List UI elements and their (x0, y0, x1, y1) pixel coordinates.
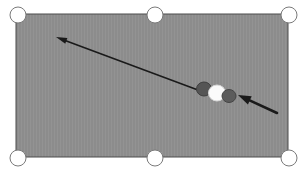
handle-top-left[interactable] (10, 7, 26, 23)
handle-bottom-left[interactable] (10, 150, 26, 166)
handle-bottom-center[interactable] (147, 150, 163, 166)
handle-top-center[interactable] (147, 7, 163, 23)
circle-dark-right[interactable] (222, 90, 236, 103)
diagram-canvas[interactable]: Selected rectangle Selection handles Lon… (0, 0, 307, 172)
diagram-scene (0, 0, 307, 172)
handle-bottom-right[interactable] (281, 150, 297, 166)
selected-rectangle[interactable] (16, 14, 288, 157)
handle-top-right[interactable] (281, 7, 297, 23)
